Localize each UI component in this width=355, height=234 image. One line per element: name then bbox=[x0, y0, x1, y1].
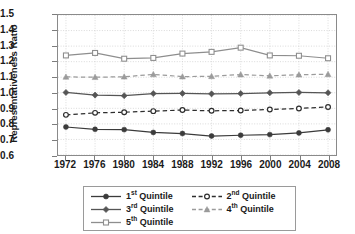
legend-key-filled-circle bbox=[89, 191, 123, 202]
x-tick-label: 2008 bbox=[309, 160, 349, 170]
legend-key-open-square bbox=[89, 217, 123, 228]
x-tick-mark bbox=[212, 156, 213, 161]
x-tick-mark bbox=[329, 156, 330, 161]
legend-item-label: 3rd Quintile bbox=[126, 205, 174, 214]
y-tick-label: 0.7 bbox=[0, 135, 14, 145]
y-tick-label: 1.1 bbox=[0, 72, 14, 82]
y-tick-label: 1.4 bbox=[0, 25, 14, 35]
legend-row: 1st Quintile2nd Quintile bbox=[89, 190, 290, 203]
y-tick-label: 1.0 bbox=[0, 88, 14, 98]
legend-row: 3rd Quintile4th Quintile bbox=[89, 203, 290, 216]
x-tick-mark bbox=[270, 156, 271, 161]
y-tick-label: 1.2 bbox=[0, 56, 14, 66]
y-tick-mark bbox=[52, 156, 57, 157]
x-tick-mark bbox=[94, 156, 95, 161]
x-tick-mark bbox=[153, 156, 154, 161]
x-tick-mark bbox=[300, 156, 301, 161]
y-tick-label: 1.3 bbox=[0, 41, 14, 51]
legend-item-1[interactable]: 1st Quintile bbox=[89, 191, 190, 202]
legend-row: 5th Quintile bbox=[89, 216, 290, 229]
legend-item-4[interactable]: 4th Quintile bbox=[190, 204, 291, 215]
y-tick-label: 0.9 bbox=[0, 104, 14, 114]
y-tick-label: 0.6 bbox=[0, 151, 14, 161]
legend-key-filled-diamond bbox=[89, 204, 123, 215]
legend-item-5[interactable]: 5th Quintile bbox=[89, 217, 192, 228]
chart-legend: 1st Quintile2nd Quintile3rd Quintile4th … bbox=[83, 186, 296, 231]
legend-item-label: 1st Quintile bbox=[126, 192, 173, 201]
data-series-layer bbox=[58, 15, 336, 155]
y-tick-label: 0.8 bbox=[0, 119, 14, 129]
x-tick-mark bbox=[65, 156, 66, 161]
x-tick-mark bbox=[182, 156, 183, 161]
x-tick-mark bbox=[241, 156, 242, 161]
x-tick-mark bbox=[124, 156, 125, 161]
y-tick-label: 1.5 bbox=[0, 9, 14, 19]
legend-key-open-circle bbox=[190, 191, 224, 202]
legend-item-label: 2nd Quintile bbox=[227, 192, 276, 201]
legend-item-label: 4th Quintile bbox=[227, 205, 274, 214]
legend-item-3[interactable]: 3rd Quintile bbox=[89, 204, 190, 215]
legend-key-filled-triangle bbox=[190, 204, 224, 215]
legend-item-2[interactable]: 2nd Quintile bbox=[190, 191, 291, 202]
legend-item-label: 5th Quintile bbox=[126, 218, 173, 227]
representativeness-ratio-chart: Representativeness Ratio 0.60.70.80.91.0… bbox=[0, 0, 355, 234]
plot-area bbox=[57, 14, 337, 156]
